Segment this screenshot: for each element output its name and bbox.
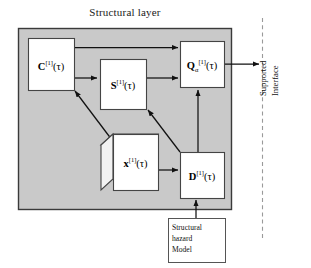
model-box-line-1: Structural [172,222,224,233]
diagram-canvas: Structural layer [0,0,311,268]
node-C-label: C[1](τ) [28,60,74,72]
model-box-line-3: Model [172,244,224,255]
supported-interface-line-1: Supported [258,6,270,96]
model-box-line-2: hazard [172,233,224,244]
node-D-label: D[1](τ) [180,170,224,182]
node-Q-label: Qα[1](τ) [180,59,224,73]
node-S-label: S[1](τ) [100,79,146,91]
supported-interface-label: Supported Interface [258,6,281,96]
supported-interface-line-2: Interface [270,6,282,96]
model-box-label: Structural hazard Model [172,222,224,255]
node-x-label: x[1](τ) [113,157,158,169]
